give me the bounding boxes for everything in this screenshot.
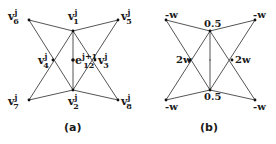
weight-v5: -w [253, 10, 266, 20]
stencil-diagram [0, 0, 276, 144]
label-v4: vj4 [38, 55, 49, 66]
caption-b: (b) [200, 121, 218, 134]
label-v3: vj3 [98, 55, 109, 66]
label-v5: vj5 [121, 11, 132, 22]
weight-v4: 2w [176, 55, 192, 65]
weight-v2: 0.5 [204, 92, 221, 102]
label-v2: vj2 [68, 96, 79, 107]
label-v6: vj6 [8, 11, 19, 22]
label-v1: vj1 [68, 11, 79, 22]
label-e12: ej+112 [75, 55, 94, 66]
weight-v8: -w [253, 102, 266, 112]
label-v8: vj8 [121, 96, 132, 107]
weight-v1: 0.5 [204, 19, 221, 29]
label-v7: vj7 [8, 96, 19, 107]
weight-v6: -w [165, 10, 178, 20]
weight-v7: -w [165, 102, 178, 112]
weight-v3: 2w [235, 55, 251, 65]
caption-a: (a) [64, 121, 81, 134]
